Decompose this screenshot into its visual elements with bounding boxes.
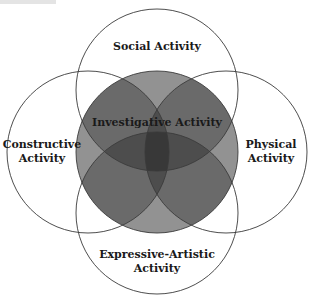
label-expressive-1: Expressive-Artistic [99, 248, 215, 261]
label-expressive-2: Activity [133, 262, 181, 275]
label-investigative: Investigative Activity [92, 116, 222, 129]
label-physical-1: Physical [245, 138, 296, 151]
venn-diagram: Social Activity Investigative Activity C… [0, 0, 310, 300]
label-social: Social Activity [113, 40, 201, 53]
label-constructive-2: Activity [18, 152, 66, 165]
label-physical-2: Activity [247, 152, 295, 165]
label-constructive-1: Constructive [3, 138, 82, 151]
